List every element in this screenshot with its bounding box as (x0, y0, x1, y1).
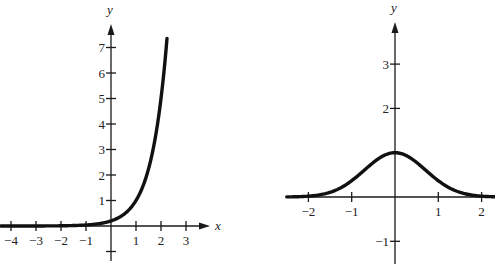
y-tick-label: 1 (99, 193, 106, 208)
exponential-curve (1, 38, 167, 226)
y-axis-arrow-icon (108, 24, 115, 35)
y-axis-label: y (105, 2, 113, 17)
y-tick-label: 2 (383, 101, 390, 116)
x-tick-label: −4 (4, 233, 18, 248)
y-tick-label: 3 (99, 142, 106, 157)
bell-curve (287, 153, 495, 197)
x-tick-label: 2 (158, 233, 165, 248)
x-tick-label: −1 (345, 204, 359, 219)
x-tick-label: 1 (435, 204, 442, 219)
x-axis-label: x (214, 218, 221, 233)
y-tick-label: 2 (99, 168, 106, 183)
y-tick-label: 5 (99, 91, 106, 106)
tick-labels: −4−3−2−11231234567 (4, 40, 189, 248)
y-axis-label: y (389, 0, 397, 15)
x-tick-label: −3 (29, 233, 43, 248)
x-tick-label: 3 (183, 233, 190, 248)
x-tick-label: −1 (79, 233, 93, 248)
x-tick-label: −2 (54, 233, 68, 248)
y-tick-label: 4 (99, 117, 106, 132)
chart-bell-curve: y −2−11232−1 (287, 0, 495, 264)
x-tick-label: −2 (301, 204, 315, 219)
figure: x y −4−3−2−11231234567 y −2−11232−1 (0, 0, 495, 266)
y-tick-label: 7 (99, 40, 106, 55)
y-tick-label: 6 (99, 66, 106, 81)
y-tick-label: 3 (383, 57, 390, 72)
x-tick-label: 1 (133, 233, 140, 248)
chart-exponential: x y −4−3−2−11231234567 (0, 2, 221, 261)
x-tick-label: 2 (478, 204, 485, 219)
x-axis-arrow-icon (199, 223, 210, 230)
y-axis-arrow-icon (392, 22, 399, 33)
y-tick-label: −1 (375, 234, 389, 249)
